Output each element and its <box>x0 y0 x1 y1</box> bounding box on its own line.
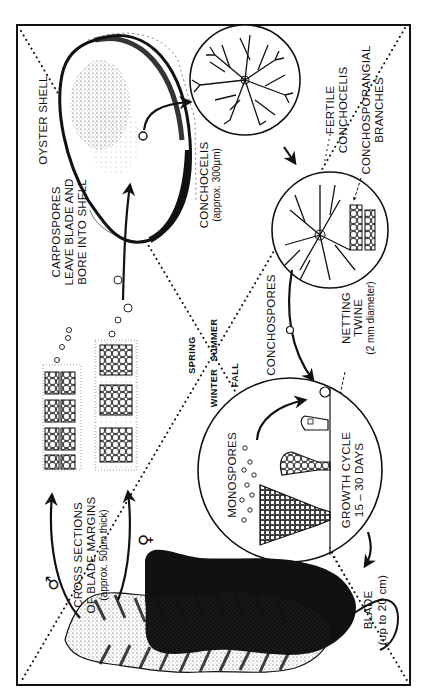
porphyra-life-cycle-diagram: SPRING SUMMER WINTER FALL OYSTER SHELL C… <box>0 0 428 695</box>
label-blade: BLADE (up to 20 cm) <box>362 575 388 645</box>
fertile-line-1: FERTILE <box>324 86 336 135</box>
fertile-conchocelis-circle <box>272 172 388 288</box>
female-symbol-icon: ♀ <box>135 534 155 546</box>
carpospores-line-3: BORE INTO SHELL <box>76 179 88 285</box>
label-cross-sections: CROSS SECTIONS OF BLADE MARGINS (approx.… <box>72 496 109 613</box>
pointer-netting-twine <box>340 372 345 395</box>
conchospore <box>287 327 294 334</box>
cross-line-1: CROSS SECTIONS <box>72 502 84 608</box>
season-winter: WINTER <box>209 369 219 408</box>
label-oyster-shell: OYSTER SHELL <box>37 75 49 165</box>
label-conchospores: CONCHOSPORES <box>265 274 277 376</box>
season-labels: SPRING SUMMER WINTER FALL <box>187 319 240 408</box>
label-monospores: MONOSPORES <box>226 432 238 518</box>
cross-line-2: OF BLADE MARGINS <box>85 496 97 613</box>
label-growth-cycle: GROWTH CYCLE 15 – 30 DAYS <box>340 432 365 528</box>
label-conchocelis: CONCHOCELIS (approx. 300µm) <box>198 142 222 229</box>
twine-line-3: (2 mm diameter) <box>365 281 376 354</box>
label-carpospores: CARPOSPORES LEAVE BLADE AND BORE INTO SH… <box>50 179 88 286</box>
carpospores-line-2: LEAVE BLADE AND <box>63 179 75 286</box>
conchocelis-circle <box>190 25 300 135</box>
label-fertile-conchocelis: FERTILE CONCHOCELIS <box>324 67 349 154</box>
blade-line-1: BLADE <box>362 591 374 630</box>
season-spring: SPRING <box>187 336 197 374</box>
growth-line-2: 15 – 30 DAYS <box>353 443 365 518</box>
blade-illustration <box>65 550 398 673</box>
season-fall: FALL <box>230 363 240 388</box>
cross-line-3: (approx. 50µm thick) <box>98 509 109 600</box>
arrow-conchospores-to-twine <box>289 270 313 380</box>
conchosporangial-line-1: CONCHOSPORANGIAL <box>360 45 372 174</box>
conchosporangial-line-2: BRANCHES <box>373 77 385 143</box>
twine-line-2: TWINE <box>352 299 364 337</box>
male-symbol-icon: ♂ <box>42 575 62 590</box>
label-conchosporangial-branches: CONCHOSPORANGIAL BRANCHES <box>360 45 385 174</box>
blade-line-2: (up to 20 cm) <box>376 575 388 645</box>
twine-line-1: NETTING <box>340 292 352 344</box>
carpospores-line-1: CARPOSPORES <box>50 186 62 277</box>
growth-line-1: GROWTH CYCLE <box>340 432 352 528</box>
arrow-conchocelis-to-fertile <box>284 147 295 163</box>
fertile-line-2: CONCHOCELIS <box>337 67 349 154</box>
cross-sections-blade-margins <box>43 276 137 470</box>
season-summer: SUMMER <box>209 319 219 362</box>
label-netting-twine: NETTING TWINE (2 mm diameter) <box>340 281 376 354</box>
conchocelis-line-1: CONCHOCELIS <box>198 142 210 229</box>
conchocelis-line-2: (approx. 300µm) <box>211 148 222 222</box>
arrow-growth-to-blade <box>365 532 371 566</box>
